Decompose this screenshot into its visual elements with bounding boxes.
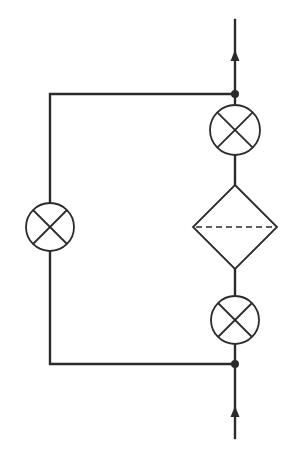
multiplier-top — [210, 105, 260, 155]
bypass-wire-top — [50, 94, 235, 203]
filter-diamond — [193, 185, 277, 269]
junction-bottom-dot — [231, 360, 239, 368]
signal-flow-diagram — [0, 0, 295, 450]
bypass-wire-bottom — [50, 251, 235, 364]
multiplier-bottom — [211, 296, 259, 344]
diagram-canvas — [0, 0, 295, 450]
arrow-up-output-icon — [231, 50, 240, 61]
arrow-up-input-icon — [231, 406, 240, 417]
junction-top-dot — [231, 90, 239, 98]
multiplier-bypass — [26, 203, 74, 251]
